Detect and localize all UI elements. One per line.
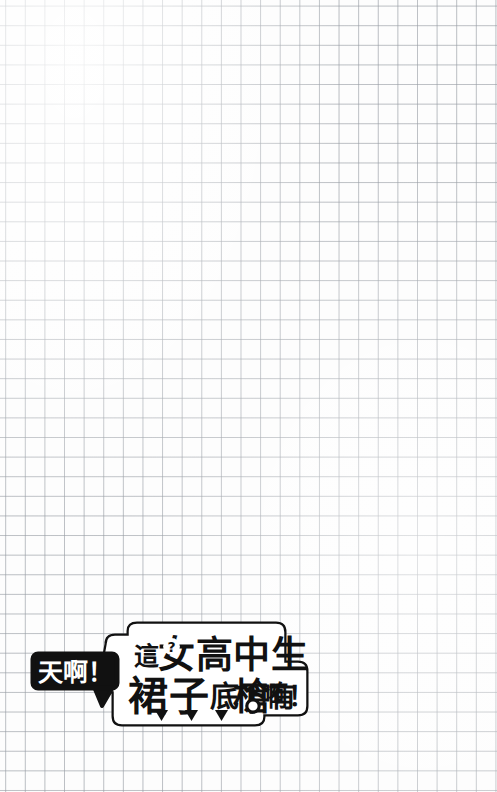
question-mark-in-female-char: ? — [163, 638, 180, 655]
keyhole-detail-icon — [247, 700, 259, 712]
exclaim-bubble: 天啊！ — [33, 654, 117, 706]
caption-chars-ah: 啊！ — [261, 681, 315, 712]
question-mark-glyph: ? — [167, 639, 175, 655]
caption-char-zhe: 這 — [134, 642, 159, 671]
screenshot-canvas: 這 女高中生 ? 裙子 底下有 槍 — [0, 0, 497, 792]
exclaim-bubble-text: 天啊！ — [38, 658, 113, 687]
manga-caption-sticker: 這 女高中生 ? 裙子 底下有 槍 — [30, 628, 315, 732]
main-balloon-line-1: 這 女高中生 ? — [134, 634, 308, 677]
caption-line1-main: 女高中生 — [158, 634, 308, 677]
caption-chars-skirt: 裙子 — [128, 673, 210, 719]
